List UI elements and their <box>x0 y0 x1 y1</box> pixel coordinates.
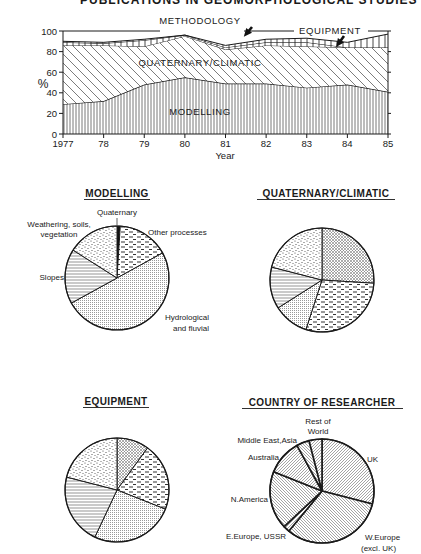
country-label-eeurope-ussr: E.Europe, USSR <box>226 532 286 541</box>
country-label-namerica: N.America <box>231 495 269 504</box>
figure-canvas: 02040608010019777879808182838485 METHODO… <box>0 0 421 554</box>
x-tick-label: 81 <box>220 138 231 149</box>
x-tick-label: 82 <box>261 138 272 149</box>
figure: PUBLICATIONS IN GEOMORPHOLOGICAL STUDIES <box>0 0 421 554</box>
label-equipment: EQUIPMENT <box>299 25 361 36</box>
modelling-label-weathering-1: Weathering, soils, <box>27 220 90 229</box>
country-label-middle-east-asia: Middle East,Asia <box>237 436 297 445</box>
x-tick-label: 78 <box>98 138 109 149</box>
pie-title-quaternary: QUATERNARY/CLIMATIC <box>263 188 390 199</box>
x-tick-label: 1977 <box>52 138 73 149</box>
y-axis-label: % <box>38 77 49 91</box>
modelling-label-hydro-2: and fluvial <box>173 324 209 333</box>
country-label-weurope-1: W.Europe <box>365 533 401 542</box>
modelling-label-quaternary: Quaternary <box>97 208 137 217</box>
modelling-label-slopes: Slopes <box>40 273 64 282</box>
pie-quaternary-climatic <box>270 228 374 332</box>
modelling-label-other-processes: Other processes <box>148 228 207 237</box>
pie-title-modelling: MODELLING <box>85 188 149 199</box>
label-quaternary-climatic: QUATERNARY/CLIMATIC <box>139 57 262 68</box>
label-methodology: METHODOLOGY <box>159 15 241 26</box>
country-label-weurope-2: (excl. UK) <box>361 544 396 553</box>
modelling-label-hydro-1: Hydrological <box>165 313 209 322</box>
stacked-area-chart: 02040608010019777879808182838485 <box>41 26 393 150</box>
pie-equipment <box>65 438 169 542</box>
country-label-uk: UK <box>367 455 379 464</box>
label-modelling: MODELLING <box>169 106 230 117</box>
pie-charts <box>65 226 374 543</box>
pie-slice <box>322 228 374 283</box>
pie-modelling <box>65 226 169 330</box>
x-tick-label: 79 <box>139 138 150 149</box>
y-tick-label: 80 <box>46 46 57 57</box>
x-axis-label: Year <box>215 150 234 161</box>
pie-title-country: COUNTRY OF RESEARCHER <box>249 397 396 408</box>
x-tick-label: 83 <box>301 138 312 149</box>
country-label-rest-1: Rest of <box>305 417 331 426</box>
x-tick-label: 80 <box>180 138 191 149</box>
x-tick-label: 84 <box>342 138 353 149</box>
y-tick-label: 100 <box>41 26 57 37</box>
cropped-figure-title: PUBLICATIONS IN GEOMORPHOLOGICAL STUDIES <box>80 0 340 7</box>
y-tick-label: 20 <box>46 108 57 119</box>
modelling-label-weathering-2: vegetation <box>41 230 78 239</box>
pie-country-of-researcher <box>270 439 374 543</box>
country-label-rest-2: World <box>308 427 329 436</box>
pie-title-equipment: EQUIPMENT <box>84 396 147 407</box>
country-label-australia: Australia <box>248 453 280 462</box>
x-tick-label: 85 <box>383 138 394 149</box>
